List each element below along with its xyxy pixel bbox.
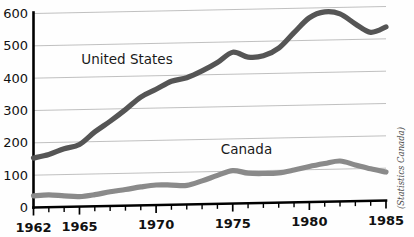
y-tick-label-500: 500	[3, 38, 28, 53]
x-tick-label-1980: 1980	[291, 214, 327, 229]
gridline-400	[34, 71, 387, 78]
source-attribution-text: (Statistics Canada)	[396, 127, 406, 209]
source-attribution: (Statistics Canada)	[396, 127, 406, 209]
x-tick-label-1970: 1970	[138, 217, 174, 232]
y-tick-label-600: 600	[3, 6, 28, 21]
gridline-300	[34, 104, 387, 111]
x-tick-label-1975: 1975	[215, 216, 251, 231]
gridline-500	[34, 39, 387, 46]
series-line-united-states	[34, 12, 387, 158]
y-axis-tick-labels: 0100200300400500600	[3, 6, 28, 215]
y-tick-label-100: 100	[3, 168, 28, 183]
gridline-100	[34, 168, 387, 175]
x-tick-label-1985: 1985	[368, 213, 404, 228]
x-tick-label-1965: 1965	[61, 219, 97, 234]
series-label-united-states: United States	[81, 51, 172, 67]
x-axis-tick-labels: 196219651970197519801985	[15, 213, 404, 235]
series-line-canada	[34, 161, 387, 197]
series-label-canada: Canada	[221, 141, 272, 157]
chart-container: 0100200300400500600 19621965197019751980…	[0, 0, 414, 237]
line-chart: 0100200300400500600 19621965197019751980…	[0, 0, 414, 237]
y-tick-label-0: 0	[20, 200, 28, 215]
x-tick-label-1962: 1962	[15, 220, 51, 235]
x-axis-line	[34, 201, 387, 208]
y-tick-label-200: 200	[3, 135, 28, 150]
y-tick-label-300: 300	[3, 103, 28, 118]
y-tick-label-400: 400	[3, 71, 28, 86]
gridlines-group	[34, 7, 387, 176]
